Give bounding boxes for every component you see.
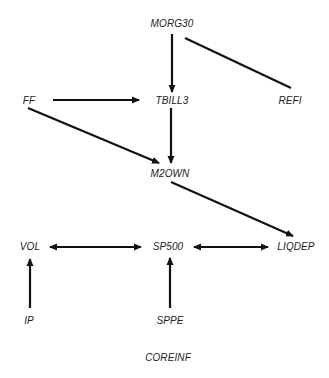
node-ff: FF: [23, 96, 35, 106]
node-sp500: SP500: [153, 242, 184, 252]
node-coreinf: COREINF: [145, 353, 191, 363]
node-vol: VOL: [20, 242, 40, 252]
edge-m2own-liqdep: [171, 182, 293, 236]
node-sppe: SPPE: [156, 316, 183, 326]
causal-graph-diagram: MORG30 FF TBILL3 REFI M2OWN VOL SP500 LI…: [0, 0, 329, 378]
node-liqdep: LIQDEP: [277, 242, 314, 252]
edge-ff-m2own: [28, 108, 159, 163]
node-ip: IP: [24, 316, 34, 326]
edge-morg30-refi: [185, 38, 291, 88]
node-tbill3: TBILL3: [156, 96, 189, 106]
node-m2own: M2OWN: [151, 169, 190, 179]
node-refi: REFI: [278, 96, 301, 106]
node-morg30: MORG30: [151, 19, 194, 29]
